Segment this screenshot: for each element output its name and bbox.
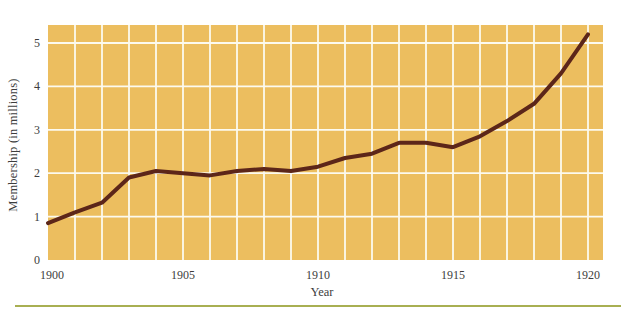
y-axis-title: Membership (in millions)	[6, 78, 21, 211]
plot-background	[48, 25, 603, 260]
y-tick-label: 1	[16, 210, 40, 224]
y-tick-label: 0	[16, 253, 40, 267]
x-tick-label: 1900	[30, 268, 74, 282]
y-tick-label: 3	[16, 123, 40, 137]
x-tick-label: 1915	[431, 268, 475, 282]
y-tick-label: 5	[16, 36, 40, 50]
x-tick-label: 1905	[161, 268, 205, 282]
x-tick-label: 1910	[296, 268, 340, 282]
membership-line-chart: Membership (in millions) 012345 19001905…	[0, 0, 621, 318]
x-tick-label: 1920	[566, 268, 610, 282]
y-tick-label: 4	[16, 79, 40, 93]
x-axis-title: Year	[310, 285, 333, 300]
y-tick-label: 2	[16, 166, 40, 180]
bottom-rule	[15, 305, 621, 307]
